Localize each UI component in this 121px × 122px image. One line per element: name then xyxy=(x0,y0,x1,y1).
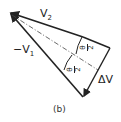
figure-caption: (b) xyxy=(53,104,66,114)
delta-v-label: ΔV xyxy=(98,74,113,85)
theta-half-upper-label: θ2 xyxy=(80,44,95,51)
v2-label: V2 xyxy=(40,8,52,22)
neg-v1-label: −V1 xyxy=(13,44,34,58)
theta-half-lower-label: θ2 xyxy=(67,66,82,73)
delta-v-vector xyxy=(84,48,110,96)
